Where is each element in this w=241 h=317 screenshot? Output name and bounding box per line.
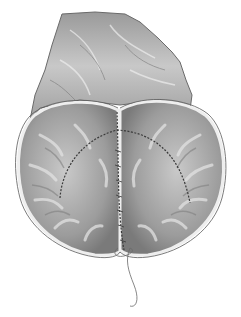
surgical-illustration (0, 0, 241, 317)
suture-thread (115, 248, 137, 306)
right-lobe (120, 101, 224, 255)
